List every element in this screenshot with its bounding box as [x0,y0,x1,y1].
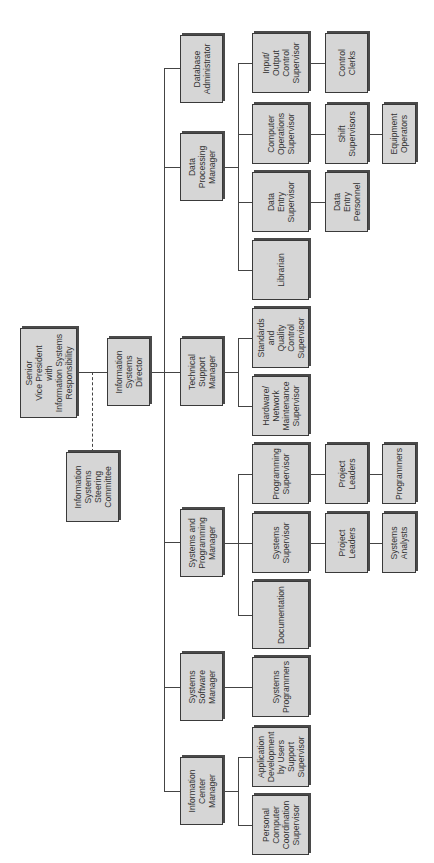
node-data-processing-manager: Data Processing Manager [180,133,223,201]
node-programmers: Programmers [382,444,416,504]
connector [238,615,252,616]
node-systems-programming-manager: Systems and Programming Manager [180,509,223,577]
connector [164,68,180,69]
connector [368,134,382,135]
connector [309,474,325,475]
node-label: Control Clerks [337,49,357,77]
node-information-systems-director: Information Systems Director [107,338,150,406]
node-technical-support-manager: Technical Support Manager [180,338,223,406]
trunk-line [164,68,165,792]
node-label: Equipment Operators [389,113,409,154]
node-librarian: Librarian [252,240,309,300]
node-label: Computer Operations Supervisor [266,113,296,155]
connector [150,372,180,373]
connector [368,543,382,544]
connector [164,542,180,543]
connector [164,687,180,688]
node-project-leaders-programming: Project Leaders [325,444,368,504]
connector [223,372,238,373]
node-label: Documentation [276,586,286,644]
node-label: Systems Supervisor [271,522,291,563]
node-io-control-supervisor: Input/ Output Control Supervisor [252,33,309,93]
node-label: Personal Computer Coordination Superviso… [261,801,301,850]
node-label: Senior Vice President with Information S… [24,334,74,412]
node-label: Data Entry Supervisor [266,181,296,222]
node-label: Programming Supervisor [271,448,291,500]
node-label: Application Development by Users Support… [256,732,306,783]
node-documentation: Documentation [252,581,309,649]
node-standards-quality-supervisor: Standards and Quality Control Supervisor [252,308,309,368]
connector [238,338,252,339]
node-label: Systems Analysts [389,527,409,560]
node-label: Input/ Output Control Supervisor [261,42,301,83]
node-senior-vice-president: Senior Vice President with Information S… [20,328,77,418]
node-label: Data Processing Manager [187,146,217,189]
node-label: Shift Supervisors [337,111,357,156]
connector [223,167,238,168]
node-shift-supervisors: Shift Supervisors [325,104,368,164]
branch-line [238,474,239,616]
connector [223,543,238,544]
connector [238,270,252,271]
connector [238,202,252,203]
node-label: Programmers [394,448,404,500]
node-programming-supervisor: Programming Supervisor [252,444,309,504]
node-hardware-network-supervisor: Hardware/ Network Maintenance Supervisor [252,376,309,436]
node-label: Project Leaders [337,458,357,489]
connector [164,791,180,792]
node-label: Systems Software Manager [187,670,217,704]
node-systems-programmers: Systems Programmers [252,657,309,717]
node-application-development-supervisor: Application Development by Users Support… [252,727,309,787]
node-information-center-manager: Information Center Manager [180,757,223,825]
connector [309,543,325,544]
node-data-entry-supervisor: Data Entry Supervisor [252,172,309,232]
connector [238,474,252,475]
node-label: Systems Programmers [271,661,291,713]
connector [223,687,252,688]
connector [164,167,180,168]
branch-line [238,757,239,825]
node-label: Standards and Quality Control Supervisor [256,317,306,358]
connector [223,791,238,792]
node-label: Data Entry Personnel [332,183,362,222]
node-data-entry-personnel: Data Entry Personnel [325,172,368,232]
branch-line [238,338,239,406]
node-label: Project Leaders [337,527,357,558]
node-label: Librarian [276,253,286,286]
node-label: Systems and Programming Manager [187,517,217,569]
org-chart: Senior Vice President with Information S… [0,0,434,863]
dashed-connector [92,372,93,452]
node-database-administrator: Database Administrator [180,35,223,103]
connector [309,134,325,135]
branch-line [238,63,239,270]
connector [238,134,252,135]
node-steering-committee: Information Systems Steering Committee [66,452,119,522]
node-equipment-operators: Equipment Operators [382,104,416,164]
connector [309,63,325,64]
connector [238,543,252,544]
node-computer-operations-supervisor: Computer Operations Supervisor [252,104,309,164]
connector [238,825,252,826]
node-control-clerks: Control Clerks [325,33,368,93]
node-pc-coordination-supervisor: Personal Computer Coordination Superviso… [252,795,309,855]
node-label: Hardware/ Network Maintenance Supervisor [261,381,301,430]
node-systems-supervisor: Systems Supervisor [252,513,309,573]
connector [238,63,252,64]
node-systems-analysts: Systems Analysts [382,513,416,573]
node-label: Information Center Manager [187,770,217,813]
node-label: Technical Support Manager [187,354,217,390]
node-label: Information Systems Steering Committee [73,466,113,509]
node-label: Database Administrator [192,44,212,95]
node-project-leaders-systems: Project Leaders [325,513,368,573]
connector [309,202,325,203]
node-label: Information Systems Director [114,351,144,394]
connector [238,406,252,407]
node-systems-software-manager: Systems Software Manager [180,653,223,721]
connector [238,757,252,758]
connector [368,474,382,475]
